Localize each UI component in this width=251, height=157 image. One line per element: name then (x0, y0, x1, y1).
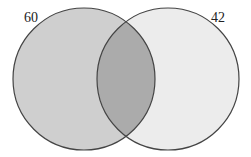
right-set-label: 42 (211, 10, 225, 25)
left-set-label: 60 (24, 10, 38, 25)
venn-diagram: 60 42 (0, 0, 251, 157)
